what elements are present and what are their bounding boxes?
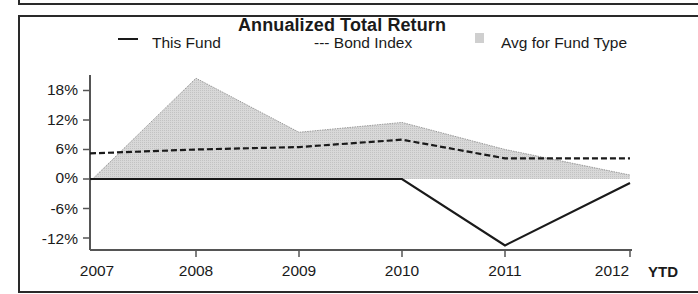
avg-fund-type-area	[90, 78, 630, 181]
